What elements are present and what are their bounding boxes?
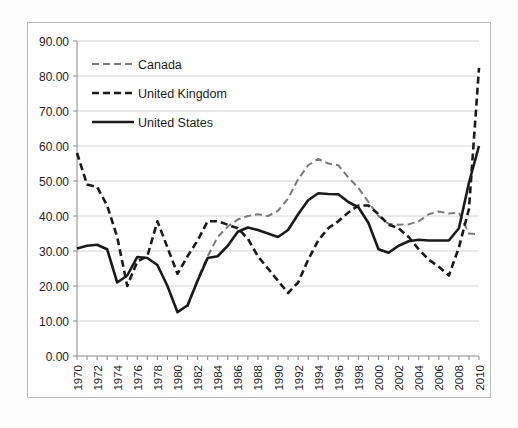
- y-axis-tick-label: 10.00: [39, 315, 69, 329]
- x-axis-tick-label: 1970: [72, 365, 84, 391]
- x-axis-tick-label: 2010: [474, 365, 486, 391]
- x-axis-tick-label: 1998: [353, 365, 365, 391]
- y-axis-tick-label: 20.00: [39, 280, 69, 294]
- x-axis-tick-label: 1974: [112, 364, 124, 390]
- y-axis-ticks: 0.0010.0020.0030.0040.0050.0060.0070.008…: [39, 35, 77, 364]
- y-axis-tick-label: 30.00: [39, 245, 69, 259]
- y-axis-tick-label: 90.00: [39, 35, 69, 49]
- x-axis-tick-label: 2006: [433, 365, 445, 391]
- x-axis-tick-label: 1982: [192, 365, 204, 391]
- y-axis-tick-label: 0.00: [46, 350, 70, 364]
- x-axis-tick-label: 1980: [172, 365, 184, 391]
- x-axis-tick-label: 1994: [313, 364, 325, 390]
- legend-label: United States: [138, 116, 213, 130]
- x-axis-ticks: 1970197219741976197819801982198419861988…: [72, 356, 486, 391]
- x-axis-tick-label: 2004: [413, 364, 425, 390]
- x-axis-tick-label: 1990: [273, 365, 285, 391]
- legend-label: United Kingdom: [138, 87, 227, 101]
- y-axis-tick-label: 80.00: [39, 70, 69, 84]
- y-axis-tick-label: 60.00: [39, 140, 69, 154]
- x-axis-tick-label: 1986: [232, 365, 244, 391]
- y-axis-tick-label: 50.00: [39, 175, 69, 189]
- x-axis-tick-label: 1976: [132, 365, 144, 391]
- x-axis-tick-label: 2000: [373, 365, 385, 391]
- legend: CanadaUnited KingdomUnited States: [92, 58, 227, 130]
- series-group: [77, 68, 479, 312]
- x-axis-tick-label: 1988: [252, 365, 264, 391]
- legend-label: Canada: [138, 58, 182, 72]
- x-axis-tick-label: 1972: [92, 365, 104, 391]
- y-axis-tick-label: 40.00: [39, 210, 69, 224]
- x-axis-tick-label: 2008: [453, 365, 465, 391]
- y-axis-tick-label: 70.00: [39, 105, 69, 119]
- series-line-united-states: [77, 146, 479, 312]
- x-axis-tick-label: 2002: [393, 365, 405, 391]
- x-axis-tick-label: 1992: [293, 365, 305, 391]
- x-axis-tick-label: 1978: [152, 365, 164, 391]
- x-axis-tick-label: 1996: [333, 365, 345, 391]
- line-chart: 0.0010.0020.0030.0040.0050.0060.0070.008…: [0, 0, 518, 428]
- chart-screenshot: 0.0010.0020.0030.0040.0050.0060.0070.008…: [0, 0, 518, 428]
- x-axis-tick-label: 1984: [212, 364, 224, 390]
